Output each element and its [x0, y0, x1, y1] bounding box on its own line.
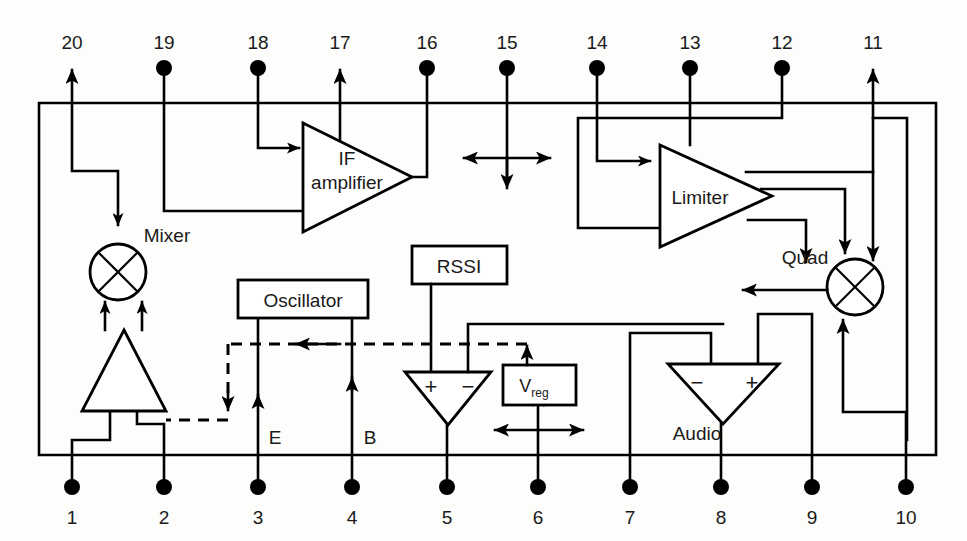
vreg-label-main: V: [519, 376, 531, 396]
pin-label-16: 16: [416, 32, 437, 53]
pin-label-18: 18: [247, 32, 268, 53]
limiter-label: Limiter: [671, 187, 729, 208]
bottom-pin-numbers: 1 2 3 4 5 6 7 8 9 10: [67, 507, 917, 528]
vreg-block: Vreg: [503, 346, 576, 405]
rssi-label: RSSI: [437, 256, 481, 277]
pin-label-13: 13: [679, 32, 700, 53]
rf-input-amplifier: [82, 302, 166, 411]
pin-label-7: 7: [625, 507, 636, 528]
bottom-pin-leads: [64, 314, 914, 495]
pin-label-6: 6: [533, 507, 544, 528]
audio-minus-sign: −: [691, 370, 704, 395]
if-amplifier-label-line1: IF: [339, 148, 356, 169]
rssi-block: RSSI: [412, 246, 507, 372]
circuit-diagram-svg: 20 19 18 17 16 15 14 13 12 11: [0, 0, 967, 541]
pin-label-17: 17: [329, 32, 350, 53]
if-amplifier-label-line2: amplifier: [311, 172, 383, 193]
audio-label: Audio: [673, 423, 722, 444]
pin-label-11: 11: [863, 32, 883, 53]
vreg-label-sub: reg: [531, 386, 548, 400]
top-pin-numbers: 20 19 18 17 16 15 14 13 12 11: [61, 32, 882, 53]
audio-amplifier-block: − + Audio: [668, 364, 779, 444]
pin-label-19: 19: [153, 32, 174, 53]
pin-label-3: 3: [253, 507, 264, 528]
comparator-plus-sign: +: [425, 374, 438, 399]
pin-label-2: 2: [159, 507, 170, 528]
comparator-minus-sign: −: [462, 374, 475, 399]
pin-label-20: 20: [61, 32, 82, 53]
oscillator-label: Oscillator: [263, 290, 343, 311]
pin-label-4: 4: [347, 507, 358, 528]
pin-label-1: 1: [67, 507, 78, 528]
pin-label-14: 14: [586, 32, 608, 53]
top-pin-leads: [72, 60, 873, 260]
quad-detector-block: Quad: [743, 247, 883, 315]
pin-label-5: 5: [442, 507, 453, 528]
pin-label-8: 8: [716, 507, 727, 528]
pin-label-9: 9: [807, 507, 818, 528]
pin-label-15: 15: [496, 32, 517, 53]
block-diagram-canvas: 20 19 18 17 16 15 14 13 12 11: [0, 0, 967, 541]
pin-label-10: 10: [895, 507, 916, 528]
base-label: B: [364, 427, 377, 448]
limiter-block: Limiter: [660, 145, 772, 247]
pin-label-12: 12: [771, 32, 792, 53]
mixer-block: Mixer: [90, 225, 191, 300]
mixer-label: Mixer: [144, 225, 191, 246]
audio-plus-sign: +: [746, 370, 759, 395]
oscillator-block: Oscillator: [238, 280, 368, 318]
quad-label: Quad: [782, 247, 828, 268]
emitter-label: E: [269, 427, 282, 448]
if-amplifier-block: IF amplifier: [303, 123, 412, 232]
